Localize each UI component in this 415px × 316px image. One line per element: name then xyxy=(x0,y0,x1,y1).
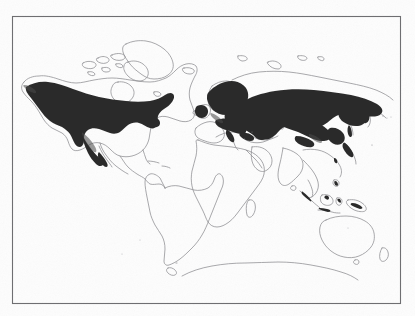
figure-root xyxy=(0,0,415,316)
ink-speck xyxy=(252,132,253,133)
world-distribution-map xyxy=(0,0,415,316)
ink-speck xyxy=(122,254,123,255)
ink-speck xyxy=(140,240,141,241)
ink-speck xyxy=(383,116,384,117)
ink-speck xyxy=(387,118,388,119)
plate-background xyxy=(0,0,415,316)
ink-speck xyxy=(372,145,373,146)
ink-speck xyxy=(348,228,349,229)
ink-speck xyxy=(391,117,392,118)
